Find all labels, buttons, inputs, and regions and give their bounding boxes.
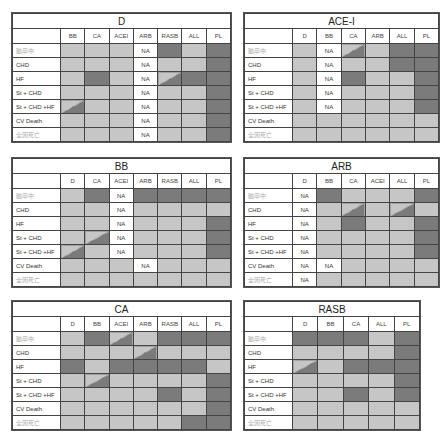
column-header: PL [206, 317, 230, 332]
cell-dark [206, 114, 230, 128]
cell-light [133, 245, 157, 259]
cell-light [133, 374, 157, 388]
cell-light [182, 346, 206, 360]
cell-light [158, 114, 182, 128]
cell-split [61, 100, 85, 114]
row-label: St + CHD [13, 231, 61, 245]
panel-ace-i: ACE-IDBBCAARBALLPL脑卒中NACHDNAHFNASt + CHD… [243, 12, 440, 143]
cell-light [61, 374, 85, 388]
cell-light [182, 273, 206, 287]
cell-dark [206, 245, 230, 259]
cell-light [133, 416, 157, 430]
cell-light [414, 128, 438, 142]
cell-light [390, 217, 414, 231]
row-label: CHD [245, 58, 293, 72]
cell-light [109, 416, 133, 430]
panel-title: D [13, 14, 231, 29]
column-header: ARB [365, 29, 389, 44]
cell-light [133, 388, 157, 402]
column-header: RASB [158, 29, 182, 44]
cell-light [182, 114, 206, 128]
cell-dark [182, 360, 206, 374]
cell-dark [293, 332, 318, 346]
cell-light [133, 332, 157, 346]
table-row: St + CHDNA [13, 86, 231, 100]
table-row: CV DeathNANA [245, 259, 439, 273]
cell-light [390, 72, 414, 86]
cell-light [341, 259, 365, 273]
row-label: HF [13, 360, 61, 374]
table-row: CHD [13, 346, 231, 360]
cell-light [61, 273, 85, 287]
cell-dark [394, 388, 419, 402]
cell-dark [61, 360, 85, 374]
cell-light [158, 245, 182, 259]
column-header: BB [317, 29, 341, 44]
row-label: 脑卒中 [245, 189, 293, 203]
cell-light [158, 128, 182, 142]
cell-light [85, 114, 109, 128]
cell-light [61, 203, 85, 217]
cell-dark [182, 416, 206, 430]
cell-light [341, 58, 365, 72]
cell-light [365, 259, 389, 273]
cell-dark [206, 217, 230, 231]
table-row: 脑卒中 [245, 332, 420, 346]
column-header: ARB [133, 174, 157, 189]
panel-ca: CADBBACEIARBRASBALLPL脑卒中CHDHFSt + CHDSt … [11, 300, 232, 431]
cell-light [365, 231, 389, 245]
row-label: St + CHD +HF [245, 388, 293, 402]
cell-light [365, 100, 389, 114]
table-row: CHDNA [245, 203, 439, 217]
cell-light [85, 100, 109, 114]
cell-light [61, 86, 85, 100]
cell-light [293, 44, 317, 58]
cell-na: NA [133, 128, 157, 142]
cell-light [343, 374, 368, 388]
column-header: D [293, 174, 317, 189]
cell-light [133, 273, 157, 287]
cell-light [293, 128, 317, 142]
panel-title: CA [13, 302, 231, 317]
column-header: ACEI [365, 174, 389, 189]
comparison-table: DBBCAACEIARBRASBALLPL脑卒中NACHDNAHFNASt + … [12, 13, 231, 142]
cell-light [365, 203, 389, 217]
row-label: 全因死亡 [13, 416, 61, 430]
table-row: CV DeathNA [13, 114, 231, 128]
panel-title: RASB [245, 302, 420, 317]
column-header: CA [85, 29, 109, 44]
column-header: PL [394, 317, 419, 332]
cell-light [318, 374, 343, 388]
cell-light [293, 72, 317, 86]
corner-cell [13, 317, 61, 332]
row-label: HF [245, 72, 293, 86]
cell-light [206, 273, 230, 287]
cell-light [158, 86, 182, 100]
cell-dark [390, 44, 414, 58]
row-label: CV Death [245, 114, 293, 128]
row-label: 脑卒中 [13, 44, 61, 58]
table-row: CHDNA [13, 203, 231, 217]
column-header: ALL [390, 174, 414, 189]
cell-dark [206, 374, 230, 388]
comparison-table: CADBBACEIARBRASBALLPL脑卒中CHDHFSt + CHDSt … [12, 301, 231, 430]
cell-light [158, 203, 182, 217]
table-row: 脑卒中NA [245, 189, 439, 203]
table-row: CV Death [245, 402, 420, 416]
comparison-table: ARBDBBCAACEIALLPL脑卒中NACHDNAHFNASt + CHDN… [244, 158, 439, 287]
cell-dark [182, 189, 206, 203]
cell-dark [133, 360, 157, 374]
cell-dark [85, 189, 109, 203]
cell-light [369, 388, 394, 402]
row-label: CHD [13, 203, 61, 217]
cell-light [317, 245, 341, 259]
cell-dark [182, 332, 206, 346]
table-row: St + CHDNA [245, 86, 439, 100]
column-header: ALL [182, 174, 206, 189]
cell-light [109, 100, 133, 114]
cell-light [109, 402, 133, 416]
cell-light [390, 114, 414, 128]
cell-split [85, 374, 109, 388]
row-label: St + CHD +HF [245, 100, 293, 114]
table-row: St + CHD +HFNA [245, 100, 439, 114]
